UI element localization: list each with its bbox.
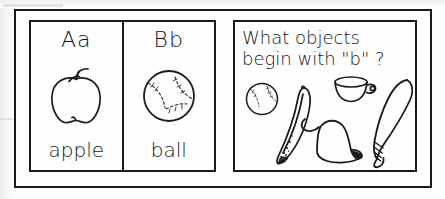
letter-cards-group: Aa apple Bb — [29, 20, 216, 172]
question-line-2: begin with "b" ? — [242, 48, 409, 69]
letter-card-a[interactable]: Aa apple — [31, 22, 122, 170]
letter-pair-a: Aa — [61, 29, 92, 51]
letter-pair-b: Bb — [154, 29, 184, 51]
worksheet-page: Aa apple Bb — [0, 0, 445, 199]
word-label-ball: ball — [151, 140, 187, 160]
scan-edge-shadow-top — [0, 0, 445, 8]
apple-illustration — [43, 65, 109, 127]
letter-card-b[interactable]: Bb ball — [122, 22, 215, 170]
baseball-bat-illustration[interactable] — [369, 77, 417, 169]
scan-edge-shadow-left — [0, 0, 14, 199]
object-illustrations — [242, 71, 409, 171]
question-panel: What objects begin with "b" ? — [233, 20, 417, 172]
scan-speck — [3, 4, 63, 7]
baseball-illustration — [136, 65, 202, 127]
scan-speck — [0, 118, 13, 120]
question-line-1: What objects — [242, 27, 409, 48]
bell-illustration[interactable] — [299, 109, 371, 167]
word-label-apple: apple — [48, 140, 104, 160]
